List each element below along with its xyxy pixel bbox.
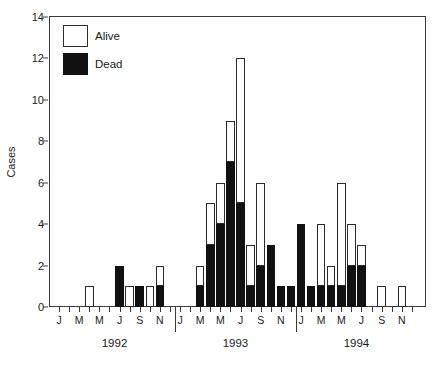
x-axis-month-label-1994-J: J — [353, 314, 369, 326]
bar-1994-F — [307, 286, 315, 307]
chart-container: Cases 02468101214 JMMJSNJMMJSNJMMJSN1992… — [0, 0, 437, 372]
year-separator-1994 — [296, 307, 297, 332]
bar-segment-alive — [256, 183, 264, 266]
bar-segment-alive — [156, 266, 164, 287]
x-axis-tick-mark-1992-J — [120, 307, 121, 312]
bar-segment-dead — [317, 286, 325, 307]
y-axis-tick-label-14: 14 — [0, 12, 44, 23]
bar-segment-dead — [347, 266, 355, 307]
x-axis-tick-mark-1993-M — [220, 307, 221, 312]
x-axis-tick-mark-1992-N — [160, 307, 161, 312]
bar-segment-alive — [196, 266, 204, 287]
bar-segment-alive — [226, 121, 234, 162]
legend-swatch-alive-icon — [63, 25, 88, 47]
bar-segment-dead — [226, 162, 234, 307]
x-axis-month-label-1993-M: M — [212, 314, 228, 326]
legend-label-alive: Alive — [95, 30, 120, 42]
bar-segment-dead — [287, 286, 295, 307]
x-axis-month-label-1994-N: N — [394, 314, 410, 326]
x-axis-tick-mark-1992-D — [170, 307, 171, 312]
x-axis-tick-mark-1993-J — [180, 307, 181, 312]
x-axis-tick-mark-1993-N — [281, 307, 282, 312]
bar-1993-J — [226, 121, 234, 307]
x-axis-month-label-1993-J: J — [233, 314, 249, 326]
bar-1992-A — [125, 286, 133, 307]
x-axis-tick-mark-1992-M — [79, 307, 80, 312]
y-axis-tick-mark-10 — [43, 99, 48, 100]
x-axis-tick-mark-1994-N — [402, 307, 403, 312]
bar-segment-alive — [236, 58, 244, 203]
x-axis-year-label-1992: 1992 — [80, 337, 150, 349]
bar-1992-N — [156, 266, 164, 307]
bar-segment-alive — [317, 224, 325, 286]
x-axis-tick-mark-1992-S — [140, 307, 141, 312]
bar-segment-dead — [327, 286, 335, 307]
chart-legend: Alive Dead — [63, 22, 123, 78]
x-axis-tick-mark-1993-S — [261, 307, 262, 312]
bar-segment-dead — [277, 286, 285, 307]
bar-1994-J — [347, 224, 355, 307]
y-axis-tick-label-6: 6 — [0, 177, 44, 188]
legend-label-dead: Dead — [95, 58, 123, 70]
x-axis-tick-mark-1994-D — [412, 307, 413, 312]
x-axis-year-label-1994: 1994 — [321, 337, 391, 349]
x-axis-tick-mark-1992-O — [150, 307, 151, 312]
y-axis-tick-mark-6 — [43, 182, 48, 183]
bar-segment-alive — [337, 183, 345, 287]
x-axis-tick-mark-1993-D — [291, 307, 292, 312]
x-axis-tick-mark-1994-F — [311, 307, 312, 312]
bar-segment-dead — [246, 286, 254, 307]
bar-segment-dead — [357, 266, 365, 307]
x-axis-tick-mark-1993-A — [251, 307, 252, 312]
bar-segment-dead — [135, 286, 143, 307]
bar-segment-alive — [216, 183, 224, 224]
bar-1994-J — [357, 245, 365, 307]
bar-segment-alive — [125, 286, 133, 307]
x-axis-tick-mark-1993-J — [230, 307, 231, 312]
bar-1993-O — [267, 245, 275, 307]
x-axis-month-label-1994-S: S — [374, 314, 390, 326]
bar-segment-dead — [297, 224, 305, 307]
x-axis-tick-mark-1993-O — [271, 307, 272, 312]
x-axis-tick-mark-1994-J — [301, 307, 302, 312]
x-axis-tick-mark-1994-J — [351, 307, 352, 312]
x-axis-tick-mark-1994-O — [392, 307, 393, 312]
legend-item-alive: Alive — [63, 22, 123, 50]
bar-segment-alive — [327, 266, 335, 287]
bar-segment-alive — [357, 245, 365, 266]
bar-segment-alive — [246, 245, 254, 286]
x-axis-tick-mark-1992-J — [109, 307, 110, 312]
bar-1994-N — [398, 286, 406, 307]
x-axis-tick-mark-1993-M — [200, 307, 201, 312]
x-axis-month-label-1992-J: J — [112, 314, 128, 326]
bar-1994-A — [327, 266, 335, 307]
bar-1993-J — [236, 58, 244, 307]
legend-item-dead: Dead — [63, 50, 123, 78]
bar-segment-dead — [196, 286, 204, 307]
bar-segment-alive — [85, 286, 93, 307]
bar-1992-J — [115, 266, 123, 307]
x-axis-tick-mark-1992-M — [99, 307, 100, 312]
bar-1992-O — [146, 286, 154, 307]
bar-1993-N — [277, 286, 285, 307]
bar-segment-dead — [156, 286, 164, 307]
bar-1993-M — [216, 183, 224, 307]
bar-segment-dead — [337, 286, 345, 307]
y-axis-tick-label-8: 8 — [0, 136, 44, 147]
bar-1994-M — [317, 224, 325, 307]
x-axis-year-label-1993: 1993 — [200, 337, 270, 349]
x-axis-month-label-1993-N: N — [273, 314, 289, 326]
bar-segment-dead — [267, 245, 275, 307]
bar-segment-dead — [256, 266, 264, 307]
y-axis-tick-mark-12 — [43, 58, 48, 59]
x-axis-tick-mark-1994-A — [372, 307, 373, 312]
bar-segment-alive — [146, 286, 154, 307]
bar-1993-D — [287, 286, 295, 307]
bar-segment-alive — [206, 203, 214, 244]
bar-segment-dead — [307, 286, 315, 307]
bar-segment-alive — [347, 224, 355, 265]
bar-segment-alive — [398, 286, 406, 307]
x-axis-month-label-1992-M: M — [71, 314, 87, 326]
year-separator-1993 — [175, 307, 176, 332]
bar-segment-dead — [115, 266, 123, 307]
